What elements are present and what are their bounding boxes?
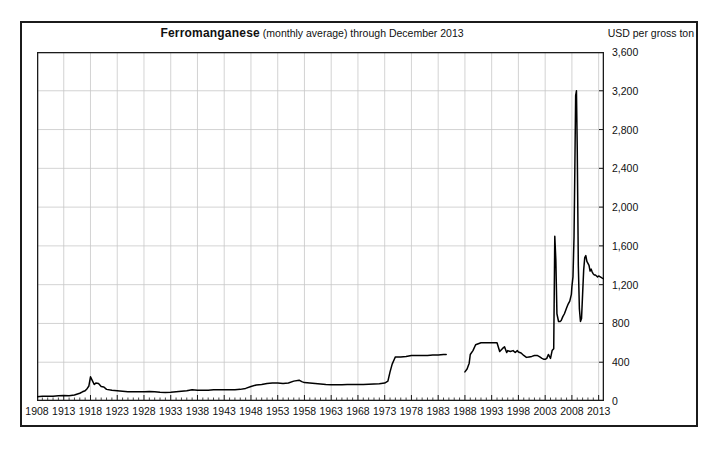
chart-figure: Ferromanganese (monthly average) through… xyxy=(0,0,718,455)
x-tick-label: 1963 xyxy=(320,405,343,418)
y-tick-label: 1,600 xyxy=(612,240,638,252)
x-tick-label: 1928 xyxy=(132,405,155,418)
x-tick-label: 1953 xyxy=(266,405,289,418)
x-tick-label: 2013 xyxy=(587,405,610,418)
x-tick-label: 2003 xyxy=(533,405,556,418)
x-tick-label: 1993 xyxy=(480,405,503,418)
chart-title: Ferromanganese (monthly average) through… xyxy=(22,26,602,40)
grid-layer xyxy=(37,52,604,401)
x-tick-label: 1983 xyxy=(426,405,449,418)
plot-area xyxy=(37,52,604,401)
x-tick-label: 1998 xyxy=(507,405,530,418)
x-tick-label: 1933 xyxy=(159,405,182,418)
x-tick-label: 1938 xyxy=(186,405,209,418)
y-tick-label: 400 xyxy=(612,356,630,368)
x-tick-label: 1988 xyxy=(453,405,476,418)
x-tick-label: 1913 xyxy=(52,405,75,418)
chart-units-label: USD per gross ton xyxy=(608,27,694,39)
chart-title-commodity: Ferromanganese xyxy=(160,26,260,40)
y-tick-label: 3,600 xyxy=(612,46,638,58)
x-tick-label: 1978 xyxy=(400,405,423,418)
y-axis-labels: 04008001,2001,6002,0002,4002,8003,2003,6… xyxy=(612,44,692,410)
y-tick-label: 1,200 xyxy=(612,279,638,291)
x-tick-label: 1918 xyxy=(79,405,102,418)
y-tick-label: 2,000 xyxy=(612,201,638,213)
x-tick-label: 1948 xyxy=(239,405,262,418)
plot-svg xyxy=(37,52,604,401)
x-tick-label: 1973 xyxy=(373,405,396,418)
x-tick-label: 1923 xyxy=(106,405,129,418)
axis-tick-marks xyxy=(37,52,604,401)
y-tick-label: 2,800 xyxy=(612,124,638,136)
x-tick-label: 1908 xyxy=(25,405,48,418)
x-axis-labels: 1908191319181923192819331938194319481953… xyxy=(28,405,618,421)
x-tick-label: 2008 xyxy=(560,405,583,418)
y-tick-label: 2,400 xyxy=(612,162,638,174)
chart-title-qualifier: (monthly average) through December 2013 xyxy=(260,27,464,39)
x-tick-label: 1958 xyxy=(293,405,316,418)
x-tick-label: 1943 xyxy=(213,405,236,418)
chart-header: Ferromanganese (monthly average) through… xyxy=(22,23,696,48)
x-tick-label: 1968 xyxy=(346,405,369,418)
y-tick-label: 800 xyxy=(612,317,630,329)
y-tick-label: 3,200 xyxy=(612,85,638,97)
